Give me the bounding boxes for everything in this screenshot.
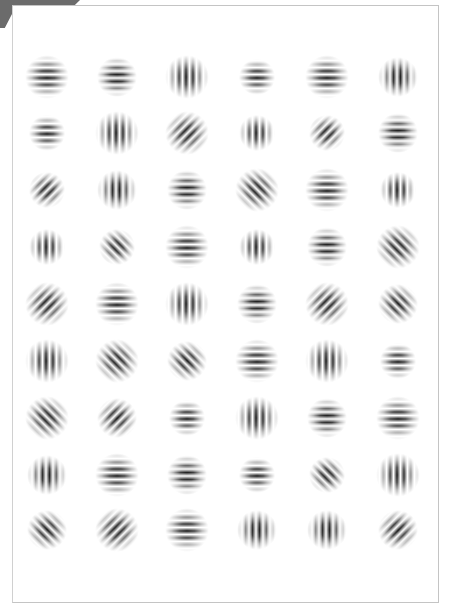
gabor-patch-diag-right (376, 508, 420, 552)
gabor-patch-horizontal (165, 168, 209, 212)
gabor-patch-horizontal (235, 339, 279, 383)
gabor-patch-horizontal (165, 396, 209, 440)
gabor-patch-vertical (95, 168, 139, 212)
gabor-patch-diag-right (95, 508, 139, 552)
gabor-patch-diag-left (165, 339, 209, 383)
gabor-patch-diag-right (165, 111, 209, 155)
gabor-patch-horizontal (165, 508, 209, 552)
gabor-patch-horizontal (235, 453, 279, 497)
gabor-patch-diag-right (95, 396, 139, 440)
gabor-patch-diag-left (235, 168, 279, 212)
gabor-patch-vertical (25, 453, 69, 497)
gabor-patch-diag-left (376, 282, 420, 326)
gabor-patch-horizontal (95, 55, 139, 99)
gabor-patch-horizontal (95, 453, 139, 497)
gabor-patch-horizontal (376, 396, 420, 440)
gabor-patch-vertical (305, 508, 349, 552)
gabor-patch-horizontal (305, 396, 349, 440)
gabor-patch-diag-left (305, 453, 349, 497)
gabor-patch-horizontal (376, 339, 420, 383)
gabor-patch-vertical (376, 55, 420, 99)
gabor-patch-diag-right (305, 282, 349, 326)
gabor-patch-vertical (376, 453, 420, 497)
gabor-patch-vertical (25, 339, 69, 383)
gabor-patch-vertical (95, 111, 139, 155)
gabor-patch-diag-left (95, 339, 139, 383)
gabor-patch-vertical (235, 396, 279, 440)
gabor-patch-horizontal (95, 282, 139, 326)
gabor-patch-diag-left (95, 225, 139, 269)
gabor-grid (0, 0, 454, 610)
gabor-patch-vertical (165, 282, 209, 326)
gabor-patch-diag-left (25, 396, 69, 440)
gabor-patch-horizontal (165, 453, 209, 497)
gabor-patch-horizontal (165, 225, 209, 269)
gabor-patch-horizontal (305, 225, 349, 269)
gabor-patch-vertical (165, 55, 209, 99)
gabor-patch-diag-right (305, 111, 349, 155)
gabor-patch-horizontal (305, 168, 349, 212)
gabor-patch-vertical (235, 111, 279, 155)
gabor-patch-horizontal (25, 55, 69, 99)
gabor-patch-horizontal (235, 282, 279, 326)
gabor-patch-vertical (235, 508, 279, 552)
gabor-patch-horizontal (25, 111, 69, 155)
gabor-patch-diag-left (25, 508, 69, 552)
gabor-patch-diag-right (25, 168, 69, 212)
gabor-patch-vertical (376, 168, 420, 212)
gabor-patch-diag-left (376, 225, 420, 269)
gabor-patch-vertical (305, 339, 349, 383)
gabor-patch-diag-right (25, 282, 69, 326)
gabor-patch-vertical (25, 225, 69, 269)
gabor-patch-horizontal (305, 55, 349, 99)
gabor-patch-vertical (235, 225, 279, 269)
gabor-patch-horizontal (235, 55, 279, 99)
gabor-patch-horizontal (376, 111, 420, 155)
